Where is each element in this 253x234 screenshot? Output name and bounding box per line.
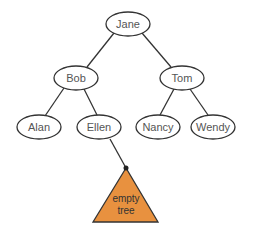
node-label-jane: Jane (116, 18, 140, 30)
edge-jane-bob (87, 33, 114, 67)
tree-diagram: empty tree Jane Bob Tom Alan Ellen Nancy… (0, 0, 253, 234)
empty-tree-apex-dot (124, 166, 129, 171)
edge-ellen-empty-tree (110, 139, 126, 168)
edge-tom-nancy (160, 89, 174, 115)
node-label-nancy: Nancy (142, 121, 174, 133)
nodes (17, 12, 235, 139)
empty-tree-label-line1: empty (112, 193, 139, 204)
node-label-bob: Bob (66, 72, 86, 84)
node-label-wendy: Wendy (196, 121, 231, 133)
node-label-ellen: Ellen (87, 121, 111, 133)
edges (45, 33, 208, 168)
empty-tree: empty tree (93, 166, 158, 223)
edge-bob-ellen (84, 89, 97, 115)
edge-bob-alan (45, 88, 64, 116)
edge-tom-wendy (190, 89, 208, 115)
edge-jane-tom (142, 33, 171, 67)
node-label-tom: Tom (172, 72, 193, 84)
node-label-alan: Alan (28, 121, 50, 133)
empty-tree-label-line2: tree (117, 205, 135, 216)
